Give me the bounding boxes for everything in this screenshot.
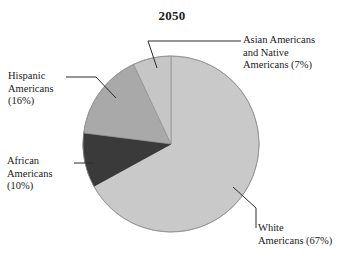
slice-label-white-americans: White Americans (67%) — [258, 222, 332, 247]
slice-label-line: White — [258, 222, 332, 235]
slice-label-hispanic-americans: Hispanic Americans (16%) — [8, 70, 53, 108]
slice-label-line: Hispanic — [8, 70, 53, 83]
slice-label-line: Americans — [8, 83, 53, 96]
pie-chart-figure: 2050 Asian Americans and Native American… — [0, 0, 344, 262]
slice-label-line: Americans — [7, 168, 52, 181]
slice-label-line: (16%) — [8, 95, 53, 108]
slice-label-asian-native-americans: Asian Americans and Native Americans (7%… — [243, 34, 315, 72]
slice-label-line: (10%) — [7, 180, 52, 193]
slice-label-line: Americans (7%) — [243, 59, 315, 72]
slice-label-line: Asian Americans — [243, 34, 315, 47]
slice-label-line: Americans (67%) — [258, 235, 332, 248]
slice-label-line: African — [7, 155, 52, 168]
slice-label-line: and Native — [243, 47, 315, 60]
slice-label-african-americans: African Americans (10%) — [7, 155, 52, 193]
